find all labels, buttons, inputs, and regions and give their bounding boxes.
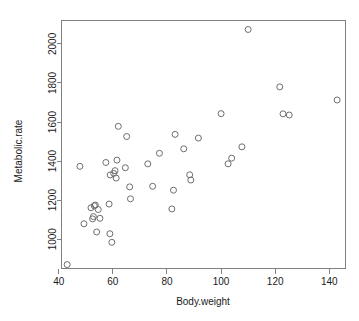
x-tick-label: 40 [53,276,65,287]
x-tick-label: 60 [107,276,119,287]
y-tick-label: 1800 [47,71,58,94]
y-tick-label: 2000 [47,32,58,55]
x-tick-label: 140 [321,276,338,287]
x-tick-label: 100 [213,276,230,287]
scatter-plot-figure: 100012001400160018002000 406080100120140… [0,0,359,321]
x-tick-label: 120 [267,276,284,287]
x-tick-label: 80 [161,276,173,287]
x-axis-title: Body.weight [176,296,230,307]
y-tick-label: 1400 [47,150,58,173]
plot-canvas: 100012001400160018002000 406080100120140… [0,0,359,321]
y-axis-title: Metabolic.rate [13,119,24,182]
y-tick-label: 1600 [47,110,58,133]
y-tick-label: 1000 [47,228,58,251]
y-tick-label: 1200 [47,189,58,212]
